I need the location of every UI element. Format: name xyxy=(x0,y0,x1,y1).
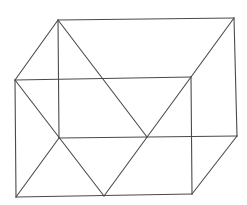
back-right-edge xyxy=(234,18,237,136)
top-left-connector xyxy=(15,20,58,80)
top-right-connector xyxy=(191,18,234,77)
front-right-edge xyxy=(191,77,192,194)
back-left-edge xyxy=(58,20,59,138)
bottom-right-connector xyxy=(192,136,237,194)
back-top-edge xyxy=(58,18,234,20)
front-left-edge xyxy=(15,80,16,197)
bottom-left-connector xyxy=(16,138,59,197)
wireframe-box-diagram xyxy=(0,0,247,205)
